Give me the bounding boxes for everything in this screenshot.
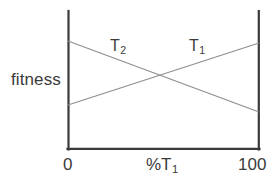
series-label-t2-base: T — [110, 37, 120, 54]
series-label-t2: T2 — [110, 38, 126, 54]
figure-container: fitness T2 T1 0 %T1 100 — [0, 0, 280, 191]
x-axis-title-subscript: 1 — [172, 163, 179, 175]
x-axis-title-base: %T — [146, 155, 172, 174]
series-label-t1-subscript: 1 — [199, 44, 205, 56]
series-line-t2 — [68, 41, 259, 112]
y-axis-title: fitness — [11, 71, 61, 88]
series-label-t1-base: T — [189, 37, 199, 54]
series-label-t1: T1 — [189, 38, 205, 54]
x-axis-tick-label-max: 100 — [238, 156, 266, 173]
x-axis-tick-label-min: 0 — [63, 156, 72, 173]
series-line-t1 — [68, 43, 259, 105]
series-label-t2-subscript: 2 — [120, 44, 126, 56]
x-axis-title: %T1 — [146, 156, 178, 173]
